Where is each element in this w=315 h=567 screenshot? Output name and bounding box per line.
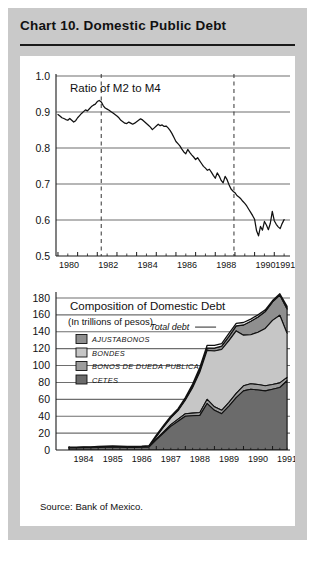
x-axis-tick-label: 1991 (277, 454, 295, 464)
legend-swatch-ajustabonos (76, 335, 87, 344)
total-debt-label: Total debt (150, 322, 190, 332)
source-note: Source: Bank of Mexico. (40, 501, 143, 512)
legend-label-cetes: CETES (92, 376, 118, 385)
x-axis-tick-label: 1989 (219, 454, 239, 464)
x-axis-tick-label: 1980 (59, 260, 79, 270)
y-axis-tick-label: 140 (32, 325, 50, 337)
x-axis-tick-label: 1990 (248, 454, 268, 464)
y-axis-tick-label: 80 (38, 376, 50, 388)
x-axis-tick-label: 1984 (138, 260, 158, 270)
ratio-m2-m4-chart: 1.00.90.80.70.60.51980198219841986198819… (20, 60, 295, 288)
composition-domestic-debt-chart: 1801601401201008060402001984198519861987… (20, 288, 295, 488)
y-axis-tick-label: 0.5 (35, 250, 50, 262)
y-axis-tick-label: 100 (32, 359, 50, 371)
x-axis-tick-label: 1991 (275, 260, 295, 270)
composition-title: Composition of Domestic Debt (70, 300, 226, 312)
y-axis-tick-label: 180 (32, 292, 50, 304)
x-axis-tick-label: 1988 (216, 260, 236, 270)
y-axis-tick-label: 0 (44, 444, 50, 456)
x-axis-tick-label: 1987 (161, 454, 181, 464)
y-axis-tick-label: 0.9 (35, 106, 50, 118)
legend-swatch-cetes (76, 375, 87, 384)
page-title: Chart 10. Domestic Public Debt (20, 18, 226, 33)
y-axis-tick-label: 1.0 (35, 70, 50, 82)
x-axis-tick-label: 1990 (256, 260, 276, 270)
y-axis-tick-label: 120 (32, 342, 50, 354)
legend-label-bondes: BONDES (92, 349, 125, 358)
x-axis-tick-label: 1988 (190, 454, 210, 464)
ratio-m2-m4-title: Ratio of M2 to M4 (70, 82, 161, 94)
x-axis-tick-label: 1985 (103, 454, 123, 464)
y-axis-tick-label: 160 (32, 308, 50, 320)
x-axis-tick-label: 1986 (132, 454, 152, 464)
x-axis-tick-label: 1984 (74, 454, 94, 464)
composition-subtitle: (In trillions of pesos) (68, 316, 153, 327)
y-axis-tick-label: 60 (38, 393, 50, 405)
y-axis-tick-label: 0.8 (35, 142, 50, 154)
y-axis-tick-label: 20 (38, 427, 50, 439)
x-axis-tick-label: 1982 (98, 260, 118, 270)
y-axis-tick-label: 40 (38, 410, 50, 422)
x-axis-tick-label: 1986 (177, 260, 197, 270)
chart-page: Chart 10. Domestic Public Debt 1.00.90.8… (0, 0, 315, 567)
legend-swatch-bonos-de-dueda-publica (76, 362, 87, 371)
ratio-m2-m4-line (58, 100, 284, 235)
legend-label-ajustabonos: AJUSTABONOS (91, 335, 150, 344)
y-axis-tick-label: 0.6 (35, 214, 50, 226)
legend-label-bonos-de-dueda-publica: BONOS DE DUEDA PUBLICA (92, 362, 199, 371)
title-divider (20, 44, 295, 46)
legend-swatch-bondes (76, 348, 87, 357)
y-axis-tick-label: 0.7 (35, 178, 50, 190)
chart-card: 1.00.90.80.70.60.51980198219841986198819… (20, 56, 295, 526)
